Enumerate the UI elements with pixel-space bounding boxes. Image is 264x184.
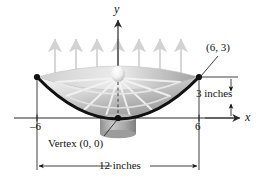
leader-line-point-6-3 bbox=[201, 56, 218, 76]
width-dimension-label: 12 inches bbox=[99, 159, 141, 171]
depth-dimension-label: 3 inches bbox=[196, 87, 232, 99]
point-vertex bbox=[115, 115, 121, 121]
dish-diagram-figure: y x (6, 3) –6 6 Vertex (0, 0) 3 inches 1… bbox=[0, 0, 264, 184]
point-6-3-label: (6, 3) bbox=[206, 41, 230, 53]
y-axis-label: y bbox=[114, 2, 119, 17]
tick-label-minus-6: –6 bbox=[30, 120, 41, 132]
point-left-rim bbox=[34, 74, 40, 80]
tick-label-6: 6 bbox=[195, 120, 201, 132]
focal-receiver-icon bbox=[111, 66, 125, 82]
vertex-label: Vertex (0, 0) bbox=[48, 137, 103, 149]
x-axis-label: x bbox=[245, 110, 250, 125]
